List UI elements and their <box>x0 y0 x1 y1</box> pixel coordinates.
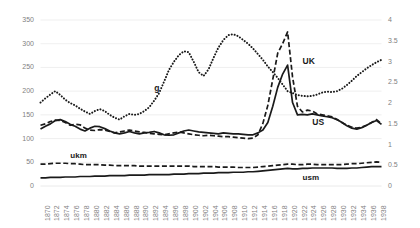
y-axis-right-tick: 1 <box>388 141 414 149</box>
x-axis-tick: 1914 <box>261 205 268 221</box>
x-axis-tick: 1922 <box>301 205 308 221</box>
x-axis-tick: 1886 <box>123 205 130 221</box>
y-axis-left-tick: 350 <box>8 16 34 24</box>
y-axis-right-tick: 0 <box>388 182 414 190</box>
y-axis-right-tick: 3.5 <box>388 37 414 45</box>
y-axis-left-tick: 0 <box>8 182 34 190</box>
y-axis-left-tick: 200 <box>8 87 34 95</box>
x-axis-tick: 1926 <box>320 205 327 221</box>
y-axis-left-tick: 300 <box>8 40 34 48</box>
x-axis-tick: 1896 <box>172 205 179 221</box>
x-axis-tick: 1898 <box>182 205 189 221</box>
x-axis-tick: 1920 <box>291 205 298 221</box>
y-axis-right-tick: 2.5 <box>388 78 414 86</box>
x-axis-tick: 1878 <box>83 205 90 221</box>
series-annotation-g: g <box>154 83 159 93</box>
y-axis-right-tick: 4 <box>388 16 414 24</box>
x-axis-tick: 1932 <box>350 205 357 221</box>
x-axis-tick: 1928 <box>330 205 337 221</box>
x-axis-tick: 1910 <box>241 205 248 221</box>
series-line-usm <box>41 167 382 178</box>
x-axis-tick: 1892 <box>152 205 159 221</box>
x-axis-tick: 1934 <box>360 205 367 221</box>
x-axis-tick: 1930 <box>340 205 347 221</box>
y-axis-left-tick: 250 <box>8 63 34 71</box>
y-axis-right-tick: 1.5 <box>388 120 414 128</box>
x-axis-tick: 1874 <box>63 205 70 221</box>
x-axis-tick: 1936 <box>370 205 377 221</box>
x-axis-tick: 1938 <box>380 205 387 221</box>
x-axis-tick: 1872 <box>53 205 60 221</box>
x-axis-tick: 1894 <box>162 205 169 221</box>
y-axis-left-tick: 150 <box>8 111 34 119</box>
series-line-uk <box>41 32 382 139</box>
x-axis-tick: 1882 <box>103 205 110 221</box>
series-annotation-usm: usm <box>302 173 319 182</box>
series-annotation-ukm: ukm <box>70 151 87 160</box>
x-axis-tick: 1900 <box>192 205 199 221</box>
x-axis-tick: 1906 <box>221 205 228 221</box>
x-axis-tick: 1904 <box>212 205 219 221</box>
x-axis-tick: 1876 <box>73 205 80 221</box>
x-axis-tick: 1890 <box>142 205 149 221</box>
series-line-us <box>41 65 382 135</box>
x-axis-tick: 1902 <box>202 205 209 221</box>
series-annotation-us: US <box>312 117 324 127</box>
x-axis-tick: 1888 <box>133 205 140 221</box>
y-axis-right-tick: 2 <box>388 99 414 107</box>
x-axis-tick: 1924 <box>310 205 317 221</box>
chart-plot-area <box>0 0 420 228</box>
x-axis-tick: 1870 <box>44 205 51 221</box>
x-axis-tick: 1908 <box>231 205 238 221</box>
y-axis-left-tick: 100 <box>8 135 34 143</box>
x-axis-tick: 1880 <box>93 205 100 221</box>
x-axis-tick: 1912 <box>251 205 258 221</box>
series-lines <box>41 32 382 178</box>
x-axis-tick: 1916 <box>271 205 278 221</box>
series-line-ukm <box>41 162 382 168</box>
x-axis-tick: 1918 <box>281 205 288 221</box>
chart-container: 350300250200150100500 43.532.521.510.50 … <box>0 0 420 228</box>
series-line-g <box>41 34 382 119</box>
y-axis-left-tick: 50 <box>8 158 34 166</box>
y-axis-right-tick: 0.5 <box>388 161 414 169</box>
y-axis-right-tick: 3 <box>388 58 414 66</box>
series-annotation-uk: UK <box>302 56 314 66</box>
gridlines <box>41 20 382 186</box>
x-axis-tick: 1884 <box>113 205 120 221</box>
